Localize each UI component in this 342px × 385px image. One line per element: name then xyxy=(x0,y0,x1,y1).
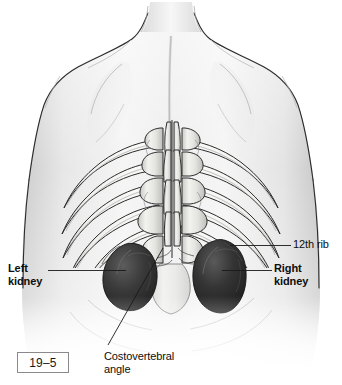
figure-number-box: 19–5 xyxy=(17,352,69,373)
neck xyxy=(141,2,201,32)
figure-number-text: 19–5 xyxy=(29,356,57,370)
label-twelfth-rib: 12th rib xyxy=(293,238,329,251)
label-costovertebral-angle: Costovertebral angle xyxy=(104,350,174,376)
anatomy-figure: Left kidney Right kidney 12th rib Costov… xyxy=(0,0,342,385)
label-left-kidney: Left kidney xyxy=(8,262,42,288)
label-right-kidney: Right kidney xyxy=(274,262,308,288)
anatomy-illustration xyxy=(0,0,342,385)
